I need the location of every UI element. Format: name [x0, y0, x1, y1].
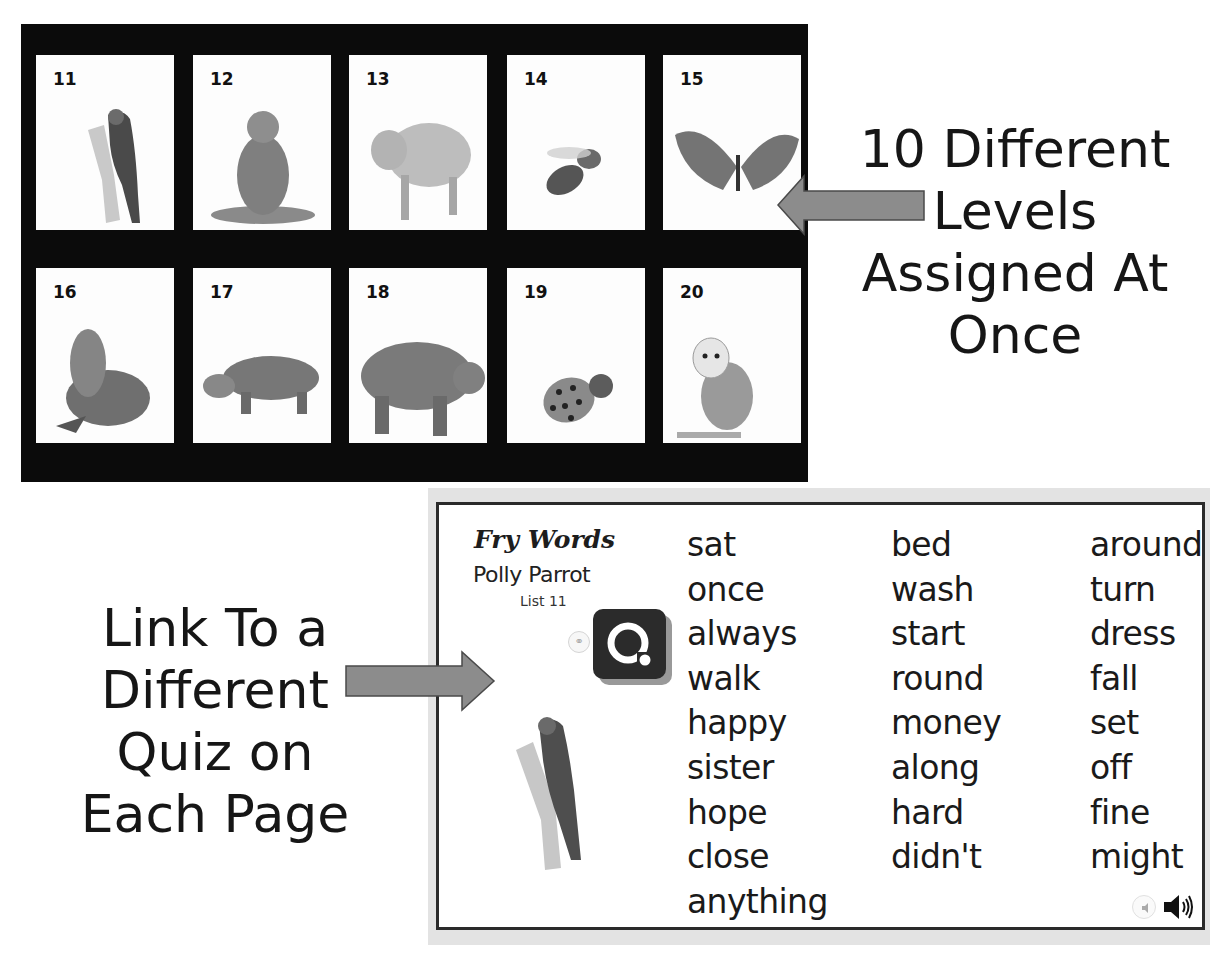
parrot-icon	[36, 55, 174, 230]
word: might	[1090, 835, 1202, 880]
level-card-11[interactable]: 11	[36, 55, 174, 230]
word: happy	[687, 701, 828, 746]
quiz-title: Fry Words	[474, 525, 615, 554]
callout-line: Once	[830, 304, 1200, 366]
list-label: List 11	[520, 593, 567, 609]
word: off	[1090, 746, 1202, 791]
quiz-subtitle: Polly Parrot	[473, 562, 590, 587]
word: sister	[687, 746, 828, 791]
word: around	[1090, 523, 1202, 568]
level-card-12[interactable]: 12	[193, 55, 331, 230]
word: wash	[891, 568, 1001, 613]
word: fall	[1090, 657, 1202, 702]
level-board: 11 12 13 14 15	[21, 24, 808, 482]
level-card-13[interactable]: 13	[349, 55, 487, 230]
seal-icon	[36, 268, 174, 443]
word: start	[891, 612, 1001, 657]
word: close	[687, 835, 828, 880]
callout-quiz-link: Link To a Different Quiz on Each Page	[30, 597, 400, 845]
word: sat	[687, 523, 828, 568]
callout-levels: 10 Different Levels Assigned At Once	[830, 118, 1200, 366]
word: set	[1090, 701, 1202, 746]
quiz-page: Fry Words Polly Parrot List 11 ⚭ sat onc…	[436, 502, 1205, 930]
word: hard	[891, 791, 1001, 836]
word: money	[891, 701, 1001, 746]
word-column-3: around turn dress fall set off fine migh…	[1090, 523, 1202, 880]
parrot-icon	[511, 710, 606, 870]
word: round	[891, 657, 1001, 702]
quizizz-q-icon[interactable]	[593, 609, 666, 679]
owl-icon	[663, 268, 801, 443]
hippo-icon	[193, 268, 331, 443]
callout-line: Quiz on	[30, 721, 400, 783]
word: dress	[1090, 612, 1202, 657]
link-icon[interactable]: ⚭	[568, 631, 590, 653]
bear-icon	[349, 268, 487, 443]
callout-line: Link To a	[30, 597, 400, 659]
speaker-icon[interactable]	[1162, 893, 1194, 921]
word: walk	[687, 657, 828, 702]
word-column-2: bed wash start round money along hard di…	[891, 523, 1001, 880]
word: bed	[891, 523, 1001, 568]
ladybug-icon	[507, 268, 645, 443]
level-card-19[interactable]: 19	[507, 268, 645, 443]
audio-controls	[1132, 893, 1194, 921]
word: turn	[1090, 568, 1202, 613]
pig-icon	[349, 55, 487, 230]
level-card-18[interactable]: 18	[349, 268, 487, 443]
level-card-14[interactable]: 14	[507, 55, 645, 230]
callout-line: 10 Different	[830, 118, 1200, 180]
callout-line: Different	[30, 659, 400, 721]
word: hope	[687, 791, 828, 836]
callout-line: Levels	[830, 180, 1200, 242]
audio-small-button[interactable]	[1132, 895, 1156, 919]
word-column-1: sat once always walk happy sister hope c…	[687, 523, 828, 924]
level-card-16[interactable]: 16	[36, 268, 174, 443]
word: didn't	[891, 835, 1001, 880]
bee-icon	[507, 55, 645, 230]
monkey-icon	[193, 55, 331, 230]
word: along	[891, 746, 1001, 791]
word: anything	[687, 880, 828, 925]
level-card-17[interactable]: 17	[193, 268, 331, 443]
word: fine	[1090, 791, 1202, 836]
word: always	[687, 612, 828, 657]
word: once	[687, 568, 828, 613]
callout-line: Assigned At	[830, 242, 1200, 304]
level-card-20[interactable]: 20	[663, 268, 801, 443]
callout-line: Each Page	[30, 783, 400, 845]
